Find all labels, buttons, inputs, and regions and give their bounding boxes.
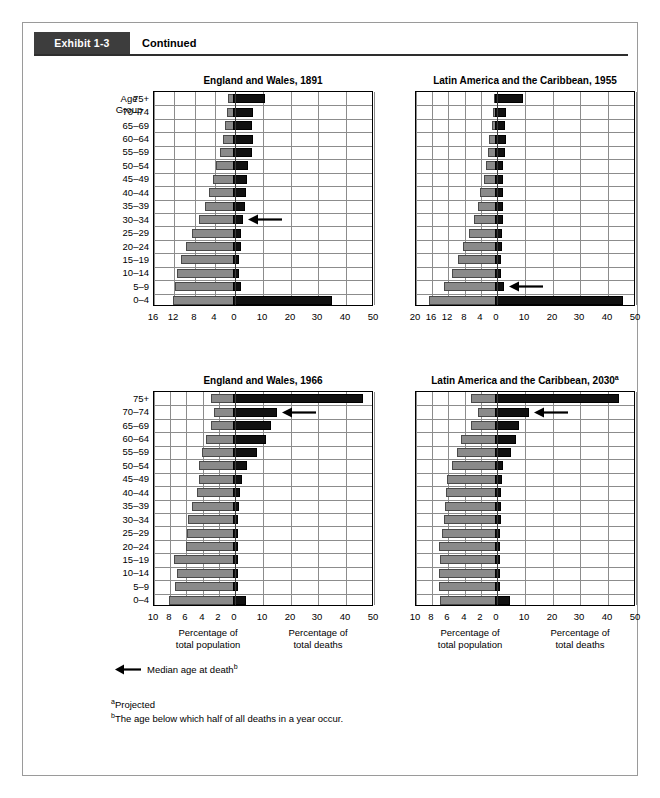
- axis-caption-line1: Percentage of: [525, 627, 635, 639]
- population-bar: [471, 421, 497, 430]
- age-group-label: 55–59: [123, 447, 154, 457]
- population-bar: [440, 596, 497, 605]
- age-group-label: 35–39: [123, 501, 154, 511]
- age-group-label: 0–4: [133, 295, 154, 305]
- population-bar: [211, 421, 235, 430]
- population-bar: [177, 569, 235, 578]
- age-group-label: 25–29: [123, 528, 154, 538]
- exhibit-continued-label: Continued: [130, 32, 628, 54]
- x-axis-tick-label: 0: [231, 611, 236, 622]
- deaths-bar: [233, 135, 253, 144]
- x-axis-tick-label: 12: [442, 311, 453, 322]
- chart-title: England and Wales, 1966: [153, 374, 373, 386]
- age-group-label: 75+: [133, 94, 154, 104]
- x-axis-tick-label: 50: [368, 611, 379, 622]
- x-axis-tick-label: 50: [630, 611, 641, 622]
- deaths-bar: [233, 255, 239, 264]
- x-axis-tick-label: 16: [148, 311, 159, 322]
- grid-line-vertical: [580, 392, 581, 605]
- grid-line-vertical: [416, 392, 417, 605]
- x-axis-tick-label: 30: [312, 611, 323, 622]
- population-bar: [211, 394, 235, 403]
- axis-zero-line: [235, 92, 236, 305]
- grid-line-vertical: [318, 92, 319, 305]
- age-group-label: 65–69: [123, 121, 154, 131]
- axis-caption-line1: Percentage of: [153, 627, 263, 639]
- x-axis-tick-label: 20: [285, 311, 296, 322]
- x-axis-tick-label: 40: [340, 311, 351, 322]
- x-axis-tick-label: 8: [428, 611, 433, 622]
- x-axis-tick-label: 6: [182, 611, 187, 622]
- x-axis-tick-label: 6: [444, 611, 449, 622]
- x-axis-tick-label: 50: [630, 311, 641, 322]
- x-axis-tick-label: 10: [148, 611, 159, 622]
- age-group-label: 45–49: [123, 474, 154, 484]
- axis-zero-line: [235, 392, 236, 605]
- x-axis-tick-label: 40: [340, 611, 351, 622]
- exhibit-page: Exhibit 1-3 Continued Age Group England …: [22, 22, 638, 776]
- x-axis-tick-label: 30: [574, 611, 585, 622]
- population-bar: [439, 582, 497, 591]
- population-bar: [174, 555, 235, 564]
- population-bar: [209, 188, 235, 197]
- chart-title-superscript: a: [615, 374, 619, 381]
- chart-latin-america-2030: Latin America and the Caribbean, 2030a 1…: [415, 391, 635, 659]
- deaths-bar: [495, 435, 516, 444]
- x-axis-tick-label: 2: [477, 611, 482, 622]
- population-bar: [444, 282, 497, 291]
- axis-caption-population-right: Percentage of total population: [415, 627, 525, 650]
- x-axis-tick-label: 20: [547, 311, 558, 322]
- legend-median-age: Median age at deathb: [115, 663, 238, 675]
- x-axis-tick-label: 30: [312, 311, 323, 322]
- x-axis-tick-label: 4: [477, 311, 482, 322]
- population-bar: [445, 502, 497, 511]
- age-group-label: 60–64: [123, 134, 154, 144]
- median-age-at-death-arrow-icon: [534, 407, 568, 418]
- grid-line-vertical: [374, 92, 375, 305]
- x-axis-tick-label: 16: [426, 311, 437, 322]
- plot-area: 75+70–7465–6960–6455–5950–5445–4940–4435…: [153, 391, 373, 606]
- population-bar: [186, 242, 235, 251]
- age-group-label: 40–44: [123, 488, 154, 498]
- deaths-bar: [495, 488, 501, 497]
- x-axis-tick-label: 10: [257, 311, 268, 322]
- median-age-at-death-arrow-icon: [509, 281, 543, 292]
- x-axis-tick-label: 50: [368, 311, 379, 322]
- deaths-bar: [495, 394, 619, 403]
- x-axis-tick-label: 8: [166, 611, 171, 622]
- population-bar: [177, 269, 235, 278]
- deaths-bar: [233, 408, 277, 417]
- x-axis-tick-label: 20: [285, 611, 296, 622]
- legend-label: Median age at deathb: [147, 663, 238, 675]
- x-axis-tick-label: 20: [547, 611, 558, 622]
- grid-line-vertical: [580, 92, 581, 305]
- x-axis-tick-label: 0: [493, 611, 498, 622]
- grid-line-vertical: [636, 392, 637, 605]
- population-bar: [444, 515, 497, 524]
- population-bar: [461, 435, 497, 444]
- grid-line-vertical: [346, 392, 347, 605]
- axis-caption-deaths-right: Percentage of total deaths: [525, 627, 635, 650]
- grid-line-vertical: [374, 392, 375, 605]
- median-arrow-icon: [115, 664, 141, 675]
- plot-area: [415, 91, 635, 306]
- population-bar: [192, 502, 235, 511]
- deaths-bar: [495, 94, 523, 103]
- deaths-bar: [233, 296, 332, 305]
- axis-caption-line2: total population: [415, 639, 525, 651]
- grid-line-vertical: [346, 92, 347, 305]
- grid-line-vertical: [525, 392, 526, 605]
- grid-line-vertical: [263, 92, 264, 305]
- population-bar: [213, 175, 235, 184]
- population-bar: [206, 435, 235, 444]
- axis-caption-line2: total population: [153, 639, 263, 651]
- axis-zero-line: [497, 392, 498, 605]
- axis-caption-line2: total deaths: [525, 639, 635, 651]
- population-bar: [457, 448, 498, 457]
- grid-line-vertical: [154, 92, 155, 305]
- age-group-label: 10–14: [123, 268, 154, 278]
- age-group-label: 70–74: [123, 107, 154, 117]
- axis-caption-line2: total deaths: [263, 639, 373, 651]
- age-group-label: 50–54: [123, 161, 154, 171]
- age-group-label: 40–44: [123, 188, 154, 198]
